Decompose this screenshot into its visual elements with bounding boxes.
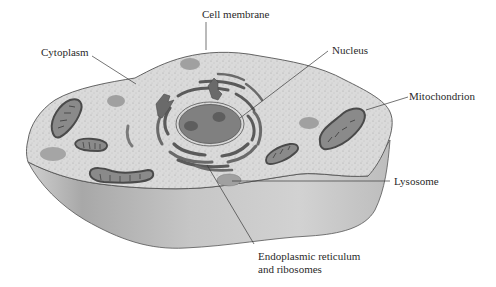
- label-nucleus: Nucleus: [332, 44, 368, 57]
- vesicle: [180, 58, 200, 70]
- label-er-line2: and ribosomes: [258, 263, 322, 276]
- vesicle: [107, 95, 125, 107]
- nucleolus: [184, 121, 198, 131]
- label-cytoplasm: Cytoplasm: [41, 46, 89, 59]
- nucleolus: [213, 112, 226, 122]
- label-mitochondrion: Mitochondrion: [409, 90, 475, 103]
- cell-diagram: Cell membrane Cytoplasm Nucleus Mitochon…: [0, 0, 496, 287]
- label-er-line1: Endoplasmic reticulum: [258, 250, 360, 263]
- vesicle: [299, 117, 319, 129]
- label-cell-membrane: Cell membrane: [202, 8, 270, 21]
- vesicle: [40, 147, 66, 161]
- nucleus: [176, 102, 244, 146]
- label-lysosome: Lysosome: [394, 175, 439, 188]
- mitochondrion-small: [75, 139, 107, 151]
- leader-cytoplasm: [92, 56, 136, 84]
- lysosome: [217, 174, 241, 186]
